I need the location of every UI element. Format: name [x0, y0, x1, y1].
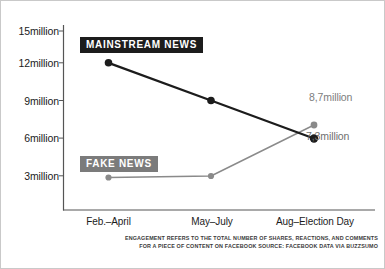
chart-footnote: ENGAGEMENT REFERS TO THE TOTAL NUMBER OF…	[97, 234, 378, 250]
x-axis-label-aug-election: Aug–Election Day	[276, 216, 354, 227]
fake-news-point-2	[208, 173, 214, 179]
y-axis-label-12m: 12million	[18, 57, 59, 69]
fake-news-point-3	[311, 122, 318, 129]
chart-container: 15million 12million 9million 6million 3m…	[0, 0, 385, 269]
fake-news-point-1	[105, 174, 111, 180]
series-label-mainstream-news: MAINSTREAM NEWS	[80, 37, 203, 53]
footnote-line-1: ENGAGEMENT REFERS TO THE TOTAL NUMBER OF…	[97, 234, 378, 242]
y-axis-label-3m: 3million	[24, 170, 59, 182]
mainstream-news-point-2	[207, 97, 215, 105]
footnote-line-2: FOR A PIECE OF CONTENT ON FACEBOOK SOURC…	[97, 242, 378, 250]
y-axis-label-9m: 9million	[24, 95, 59, 107]
x-axis-label-feb-april: Feb.–April	[86, 216, 131, 227]
x-axis-label-may-july: May–July	[191, 216, 232, 227]
y-axis-label-6m: 6million	[24, 132, 59, 144]
y-axis-ticks	[59, 31, 64, 176]
value-label-fake-news-end: 8,7million	[309, 91, 352, 103]
series-label-fake-news: FAKE NEWS	[80, 156, 158, 172]
mainstream-news-point-1	[105, 59, 113, 67]
series-mainstream-news	[105, 59, 318, 143]
value-label-mainstream-news-end: 7,3million	[306, 130, 349, 142]
y-axis-label-15m: 15million	[18, 25, 59, 37]
